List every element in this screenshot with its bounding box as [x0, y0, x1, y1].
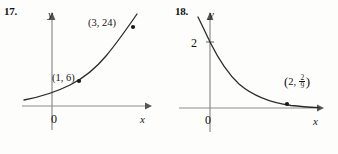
close-paren: ) [306, 74, 310, 89]
fraction-numerator: 2 [299, 74, 305, 82]
data-point-1-6 [77, 79, 81, 83]
x-axis-label: x [313, 115, 318, 127]
figure-17-plot [0, 0, 169, 154]
origin-label: 0 [51, 112, 57, 127]
y-axis-label: y [48, 8, 53, 20]
exponential-decay-curve [198, 17, 319, 108]
figure-18: 18. y x 0 2 (2, 29) [169, 0, 338, 154]
data-point-2-two-ninths [285, 102, 289, 106]
figure-18-plot [169, 0, 338, 154]
y-tick-label-2: 2 [191, 36, 197, 51]
open-paren: ( [284, 74, 288, 89]
comma-separator: , [294, 76, 299, 87]
origin-label: 0 [205, 113, 211, 128]
fraction-denominator: 9 [299, 82, 305, 90]
point-label-1-6: (1, 6) [52, 72, 75, 83]
exponential-growth-curve [24, 14, 137, 100]
point-label-3-24: (3, 24) [88, 17, 116, 28]
figure-17: 17. y x 0 (3, 24) (1, 6) [0, 0, 169, 154]
data-point-3-24 [131, 25, 135, 29]
point-label-2-two-ninths: (2, 29) [284, 74, 310, 91]
x-axis-label: x [140, 113, 145, 125]
textbook-figure-page: 17. y x 0 (3, 24) (1, 6) 18. [0, 0, 338, 154]
fraction-two-ninths: 29 [299, 74, 305, 91]
y-axis-label: y [209, 8, 214, 20]
x-axis-arrowhead [145, 103, 152, 110]
